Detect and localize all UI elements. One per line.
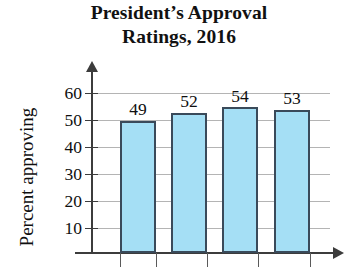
bar-value-4: 53 [262, 90, 322, 108]
x-tick-1 [120, 253, 121, 267]
y-tick-label-50: 50 [42, 112, 82, 130]
y-axis-arrow-icon [86, 61, 98, 72]
y-tick-label-10: 10 [42, 220, 82, 238]
bar-2 [171, 113, 207, 253]
x-axis-arrow-icon [333, 247, 344, 259]
y-tick-label-30: 30 [42, 166, 82, 184]
x-tick-5 [310, 253, 311, 267]
x-tick-2 [156, 253, 157, 267]
x-tick-3 [207, 253, 208, 267]
y-axis-line [91, 70, 93, 254]
approval-ratings-bar-chart: President’s Approval Ratings, 2016 Perce… [0, 0, 358, 272]
bar-value-3: 54 [210, 88, 270, 106]
y-tick-label-60: 60 [42, 85, 82, 103]
bar-1 [120, 121, 156, 253]
y-axis-label: Percent approving [16, 87, 38, 267]
bar-3 [222, 107, 258, 253]
bar-4 [274, 110, 310, 253]
x-tick-4 [258, 253, 259, 267]
y-tick-label-20: 20 [42, 193, 82, 211]
plot-area: Percent approving 60 50 40 30 20 10 [0, 0, 358, 272]
y-tick-label-40: 40 [42, 139, 82, 157]
